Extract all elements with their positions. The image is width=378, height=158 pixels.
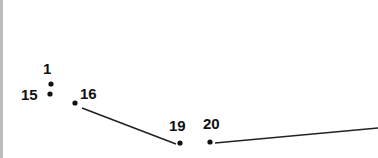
segment-16-19 [82, 108, 176, 144]
dot-19[interactable] [177, 140, 182, 145]
dot-15[interactable] [47, 91, 52, 96]
segment-20-next [215, 128, 378, 143]
dot-label-19: 19 [169, 118, 186, 133]
dot-20[interactable] [207, 139, 212, 144]
dot-1[interactable] [48, 81, 53, 86]
dot-label-1: 1 [43, 61, 51, 76]
dot-canvas [0, 0, 378, 158]
dot-label-15: 15 [21, 87, 38, 102]
dot-label-16: 16 [80, 86, 97, 101]
dot-label-20: 20 [203, 116, 220, 131]
dot-16[interactable] [72, 100, 77, 105]
